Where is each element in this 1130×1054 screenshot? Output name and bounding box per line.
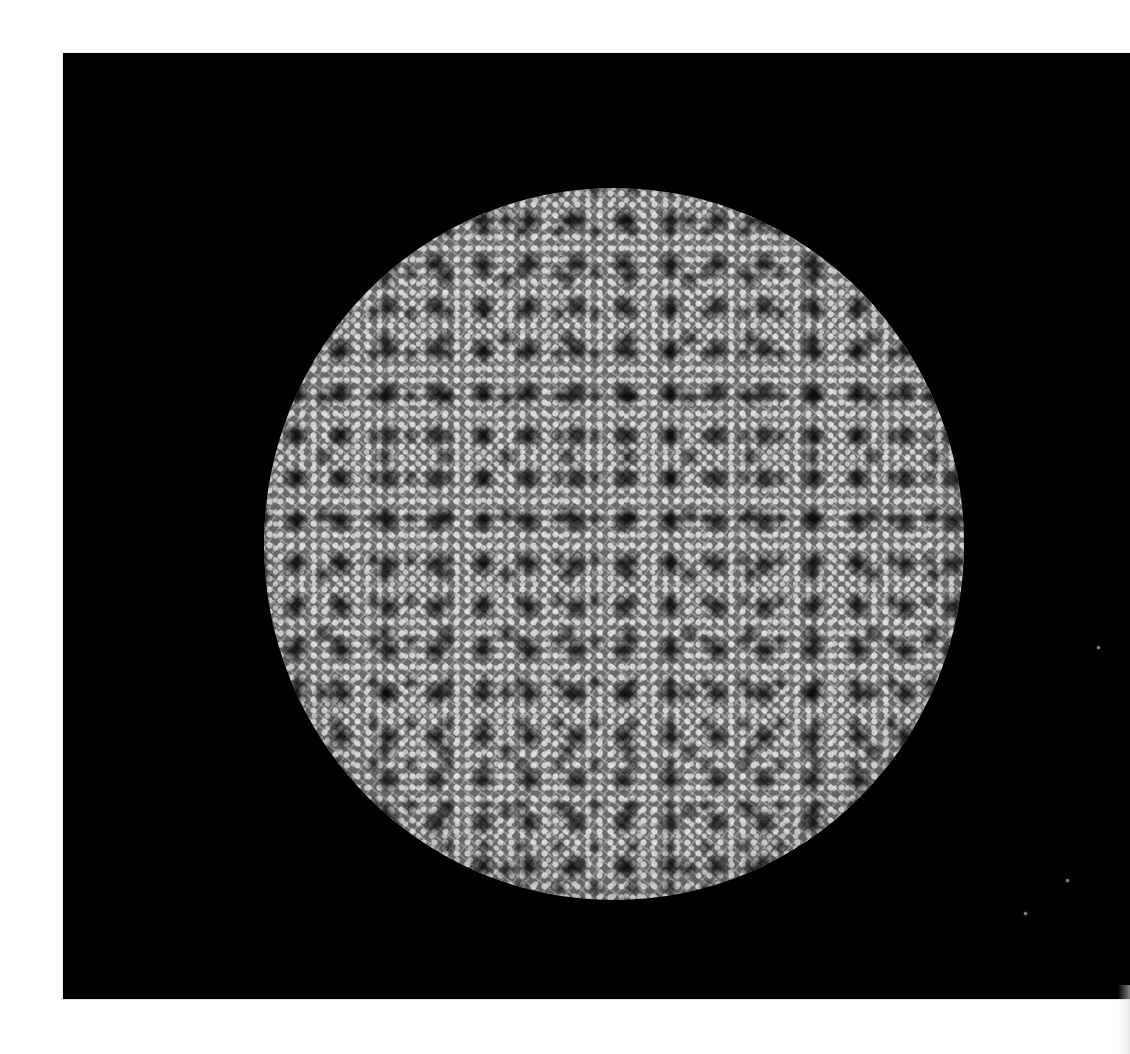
background-star — [1024, 912, 1027, 915]
background-star — [1097, 646, 1100, 649]
edge-glow — [1118, 985, 1130, 1054]
textured-sphere — [264, 188, 964, 900]
background-star — [1066, 879, 1069, 882]
image-frame — [63, 53, 1130, 999]
sphere-shading — [264, 188, 964, 900]
